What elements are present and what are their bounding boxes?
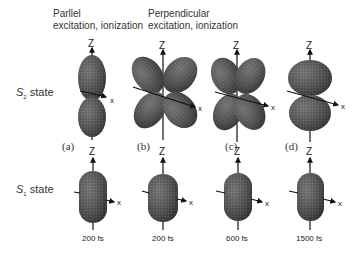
time-label-d: 1500 fs [296, 234, 322, 243]
panel-label-d: (d) [285, 140, 298, 152]
z-axis-label: Z [306, 146, 312, 157]
panel-label-a: (a) [62, 140, 74, 152]
s2-panel-d-orbital [287, 50, 338, 142]
x-axis-label: x [110, 96, 114, 105]
z-axis-label: Z [89, 146, 95, 157]
x-axis-label: x [265, 199, 269, 208]
s1-panel-b-orbital [142, 158, 186, 230]
z-axis-label: Z [233, 40, 239, 51]
s2-panel-a-orbital [78, 48, 106, 140]
x-axis-label: x [198, 104, 202, 113]
x-axis-label: x [271, 103, 275, 112]
x-axis-label: x [117, 198, 121, 207]
s1-panel-a-orbital [74, 158, 114, 230]
z-axis-label: Z [88, 38, 94, 49]
z-axis-label: Z [159, 146, 165, 157]
panel-label-b: (b) [137, 140, 150, 152]
x-axis-label: x [338, 199, 342, 208]
s1-panel-d-orbital [289, 158, 335, 230]
s2-panel-b-orbital [125, 50, 204, 140]
s2-panel-c-orbital [205, 50, 271, 142]
time-label-a: 200 fs [82, 234, 104, 243]
s1-panel-c-orbital [216, 158, 262, 230]
time-label-c: 600 fs [226, 234, 248, 243]
time-label-b: 200 fs [152, 234, 174, 243]
orbital-figure [0, 0, 356, 255]
x-axis-label: x [189, 198, 193, 207]
z-axis-label: Z [306, 40, 312, 51]
x-axis-label: x [341, 102, 345, 111]
z-axis-label: Z [159, 40, 165, 51]
z-axis-label: Z [234, 146, 240, 157]
